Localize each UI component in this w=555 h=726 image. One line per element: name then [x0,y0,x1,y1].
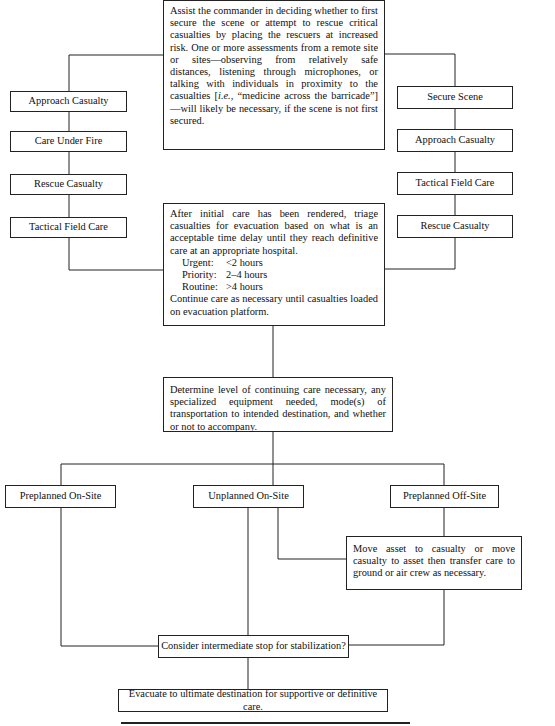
right-secure-scene-box: Secure Scene [397,86,513,109]
right-tactical-field-care-box: Tactical Field Care [397,172,513,195]
preplanned-off-site-box: Preplanned Off-Site [390,485,499,508]
triage-routine: Routine:>4 hours [170,281,378,293]
unplanned-on-site-box: Unplanned On-Site [193,485,304,508]
bottom-rule [121,722,410,724]
left-approach-casualty-box: Approach Casualty [10,91,127,112]
left-tactical-field-care-box: Tactical Field Care [10,217,127,238]
consider-stop-box: Consider intermediate stop for stabiliza… [158,635,349,658]
determine-care-box: Determine level of continuing care neces… [163,377,393,432]
triage-intro: After initial care has been rendered, tr… [170,208,378,257]
evacuate-box: Evacuate to ultimate destination for sup… [118,689,388,712]
triage-box: After initial care has been rendered, tr… [163,203,385,326]
move-asset-text: Move asset to casualty or move casualty … [353,543,515,580]
move-asset-box: Move asset to casualty or move casualty … [346,536,522,590]
determine-care-text: Determine level of continuing care neces… [170,384,386,433]
triage-outro: Continue care as necessary until casualt… [170,293,378,317]
assess-scene-text: Assist the commander in deciding whether… [170,5,378,127]
triage-urgent: Urgent:<2 hours [170,257,378,269]
right-approach-casualty-box: Approach Casualty [397,129,513,152]
left-care-under-fire-box: Care Under Fire [10,131,127,152]
left-rescue-casualty-box: Rescue Casualty [10,174,127,195]
preplanned-on-site-box: Preplanned On-Site [5,485,116,508]
triage-priority: Priority:2–4 hours [170,269,378,281]
right-rescue-casualty-box: Rescue Casualty [397,215,513,238]
assess-scene-box: Assist the commander in deciding whether… [163,0,385,150]
